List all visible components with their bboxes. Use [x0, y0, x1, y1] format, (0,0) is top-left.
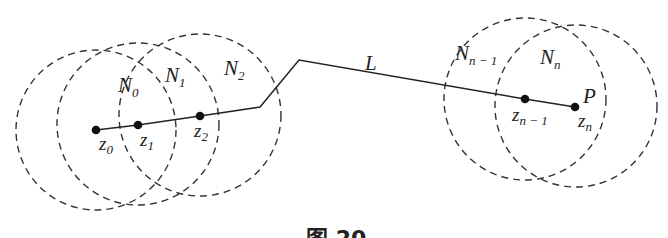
- point-z2: [196, 112, 205, 121]
- point-z-n-minus-1: [521, 95, 530, 104]
- label-endpoint-p: P: [582, 84, 596, 108]
- point-z1: [134, 121, 143, 130]
- label-n2: N2: [223, 56, 245, 83]
- label-n0: N0: [117, 73, 139, 100]
- label-n-minus-1: Nn − 1: [454, 41, 497, 68]
- path-cover-diagram: N0 N1 N2 Nn − 1 Nn L P z0 z1 z2 zn − 1 z…: [0, 0, 668, 238]
- label-z2: z2: [193, 120, 208, 144]
- label-path-l: L: [364, 51, 377, 75]
- label-z-n-minus-1: zn − 1: [511, 104, 548, 128]
- label-zn: zn: [577, 110, 592, 134]
- label-z0: z0: [98, 133, 113, 157]
- figure-caption: 图 20: [306, 226, 366, 238]
- label-z1: z1: [139, 129, 154, 153]
- label-nn: Nn: [539, 45, 561, 72]
- label-n1: N1: [164, 63, 186, 90]
